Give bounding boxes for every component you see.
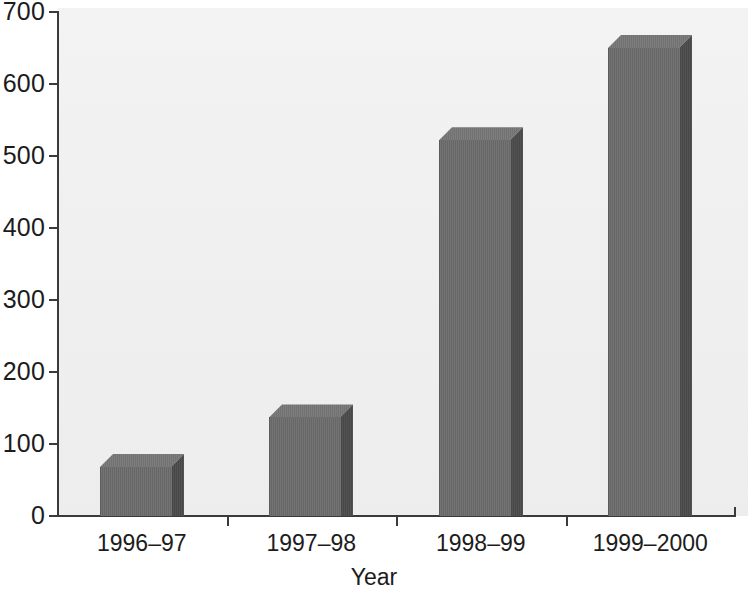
bar-front-face [269, 417, 341, 516]
x-axis-tick-label: 1996–97 [57, 532, 227, 555]
y-axis-tick-label: 500 [3, 143, 45, 168]
bar [269, 0, 353, 516]
bar-front-face [439, 140, 511, 516]
y-axis-line [57, 11, 59, 517]
y-axis-tick [49, 371, 58, 373]
x-axis-tick [396, 516, 398, 526]
y-axis-tick [49, 155, 58, 157]
x-axis-tick-label: 1998–99 [396, 532, 566, 555]
y-axis-tick-label: 400 [3, 215, 45, 240]
bar-side-face [510, 127, 523, 516]
y-axis-tick [49, 515, 58, 517]
bar-top-face [100, 454, 184, 467]
x-axis-tick [227, 516, 229, 526]
bar-top-face [608, 35, 692, 48]
x-axis-title: Year [0, 566, 748, 589]
y-axis-tick-label: 200 [3, 359, 45, 384]
y-axis-tick [49, 443, 58, 445]
y-axis-tick [49, 227, 58, 229]
y-axis-tick [49, 299, 58, 301]
bar [439, 0, 523, 516]
y-axis-tick [49, 11, 58, 13]
bar-chart: 0100200300400500600700 1996–971997–98199… [0, 0, 748, 600]
x-axis-right-cap [734, 507, 736, 517]
y-axis-tick-label: 300 [3, 287, 45, 312]
x-axis-tick [566, 516, 568, 526]
y-axis-tick-label: 100 [3, 431, 45, 456]
bar-side-face [679, 35, 692, 516]
bar-front-face [608, 48, 680, 516]
bar [100, 0, 184, 516]
x-axis-tick-label: 1999–2000 [566, 532, 736, 555]
x-axis-tick-label: 1997–98 [227, 532, 397, 555]
y-axis-tick [49, 83, 58, 85]
y-axis-tick-label: 0 [31, 503, 45, 528]
bar-top-face [439, 127, 523, 140]
bar [608, 0, 692, 516]
bar-front-face [100, 467, 172, 516]
y-axis-tick-label: 700 [3, 0, 45, 24]
bar-side-face [340, 404, 353, 516]
bar-top-face [269, 404, 353, 417]
y-axis-tick-label: 600 [3, 71, 45, 96]
